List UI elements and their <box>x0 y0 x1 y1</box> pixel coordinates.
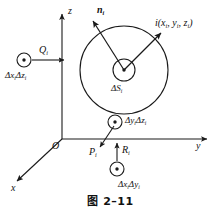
r-element-dot <box>115 167 118 170</box>
q-element-dot <box>22 58 25 61</box>
p-label: Pi <box>89 147 97 158</box>
p-element-dot <box>113 120 116 123</box>
normal-vector-label: ni <box>97 5 104 16</box>
area-yz-label: ΔyiΔzi <box>125 116 146 126</box>
coordinate-diagram <box>0 0 221 214</box>
y-axis-label: y <box>196 141 200 151</box>
area-xy-label: ΔxiΔyi <box>118 180 140 190</box>
p-arrow-line <box>100 126 114 147</box>
area-xz-label: ΔxiΔzi <box>5 71 26 81</box>
surface-element-label: ΔSi <box>111 84 122 94</box>
figure-container: z y x O ni i(xi, yi, zi) ΔSi Qi ΔxiΔzi Δ… <box>0 0 221 214</box>
origin-label: O <box>52 141 59 151</box>
r-label: Ri <box>122 145 130 156</box>
current-vector-line <box>124 33 161 70</box>
current-vector-label: i(xi, yi, zi) <box>155 18 192 29</box>
z-axis-label: z <box>68 6 72 16</box>
figure-caption: 图 2–11 <box>0 192 221 208</box>
q-label: Qi <box>39 45 48 56</box>
